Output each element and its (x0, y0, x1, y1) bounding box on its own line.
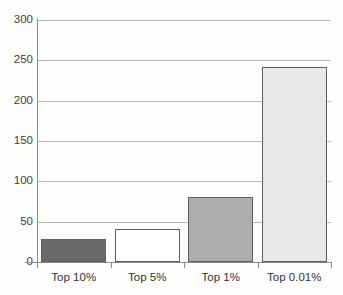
x-tick-mark (331, 262, 332, 268)
x-axis-label-top-0-01: Top 0.01% (258, 271, 332, 284)
y-tick-label-250: 250 (0, 54, 33, 65)
bar-top-10 (41, 239, 106, 262)
bar-top-1 (188, 197, 253, 262)
x-axis-label-top-10: Top 10% (37, 271, 111, 284)
y-tick-label-100: 100 (0, 175, 33, 186)
x-axis-line (25, 262, 331, 263)
bar-chart: 050100150200250300 Top 10%Top 5%Top 1%To… (0, 0, 343, 295)
bar-top-0-01 (262, 67, 327, 262)
y-tick-label-150: 150 (0, 135, 33, 146)
y-tick-label-50: 50 (0, 216, 33, 227)
x-axis-label-top-1: Top 1% (184, 271, 258, 284)
x-tick-mark (111, 262, 112, 268)
x-tick-mark (184, 262, 185, 268)
x-axis-label-top-5: Top 5% (111, 271, 185, 284)
x-tick-mark (37, 262, 38, 268)
bars-layer (37, 20, 331, 262)
bar-top-5 (115, 229, 180, 262)
y-tick-label-300: 300 (0, 14, 33, 25)
y-tick-label-200: 200 (0, 95, 33, 106)
x-tick-mark (258, 262, 259, 268)
